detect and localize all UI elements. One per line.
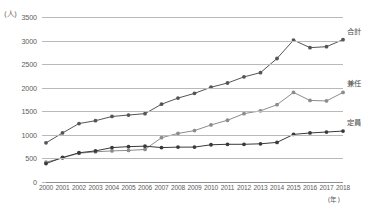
y-axis-tick-label: 1500 xyxy=(7,111,37,120)
data-point-marker xyxy=(325,130,329,134)
y-axis-tick-mark xyxy=(42,158,46,159)
gridline xyxy=(46,135,343,136)
gridline xyxy=(46,41,343,42)
data-point-marker xyxy=(160,146,164,150)
data-point-marker xyxy=(226,142,230,146)
y-axis-tick-label: 2500 xyxy=(7,64,37,73)
gridline xyxy=(46,64,343,65)
y-axis-tick-label: 500 xyxy=(7,158,37,167)
series-layer xyxy=(46,17,343,182)
data-point-marker xyxy=(275,141,279,145)
x-axis-tick-label: 2012 xyxy=(237,184,251,191)
x-axis-tick-label: 2010 xyxy=(204,184,218,191)
data-point-marker xyxy=(341,91,345,95)
x-axis-tick-labels: 2000200120022003200420052006200720082009… xyxy=(46,184,343,196)
line-chart: (人) 200020012002200320042005200620072008… xyxy=(0,0,381,214)
gridline xyxy=(46,182,343,183)
data-point-marker xyxy=(308,99,312,103)
x-axis-tick-label: 2005 xyxy=(121,184,135,191)
y-axis-tick-label: 0 xyxy=(7,182,37,191)
y-axis-tick-mark xyxy=(42,111,46,112)
y-axis-tick-mark xyxy=(42,64,46,65)
data-point-marker xyxy=(160,136,164,140)
y-axis-tick-label: 2000 xyxy=(7,88,37,97)
data-point-marker xyxy=(226,118,230,122)
data-point-marker xyxy=(341,129,345,133)
x-axis-tick-label: 2017 xyxy=(319,184,333,191)
data-point-marker xyxy=(127,113,131,117)
plot-area xyxy=(46,17,343,182)
x-axis-tick-label: 2016 xyxy=(303,184,317,191)
data-point-marker xyxy=(259,142,263,146)
data-point-marker xyxy=(242,75,246,79)
data-point-marker xyxy=(193,129,197,133)
series-label-1: 合計 xyxy=(347,28,361,35)
x-axis-tick-label: 2006 xyxy=(138,184,152,191)
y-axis-tick-mark xyxy=(42,135,46,136)
x-axis-tick-label: 2000 xyxy=(39,184,53,191)
x-axis-tick-label: 2008 xyxy=(171,184,185,191)
gridline xyxy=(46,158,343,159)
series-line xyxy=(46,40,343,143)
data-point-marker xyxy=(143,148,147,152)
x-axis-tick-label: 2002 xyxy=(72,184,86,191)
data-point-marker xyxy=(242,142,246,146)
x-axis-tick-label: 2001 xyxy=(55,184,69,191)
data-point-marker xyxy=(209,123,213,127)
x-axis-tick-label: 2018 xyxy=(336,184,350,191)
data-point-marker xyxy=(143,112,147,116)
data-point-marker xyxy=(44,141,48,145)
y-axis-tick-label: 3000 xyxy=(7,41,37,50)
gridline xyxy=(46,88,343,89)
x-axis-tick-label: 2003 xyxy=(88,184,102,191)
data-point-marker xyxy=(209,143,213,147)
data-point-marker xyxy=(77,151,81,155)
x-axis-tick-label: 2015 xyxy=(286,184,300,191)
data-point-marker xyxy=(176,145,180,149)
data-point-marker xyxy=(325,45,329,49)
x-axis-tick-label: 2007 xyxy=(154,184,168,191)
data-point-marker xyxy=(242,112,246,116)
data-point-marker xyxy=(275,103,279,107)
x-axis-unit-label: (年) xyxy=(328,194,340,204)
series-label-2: 兼任 xyxy=(347,80,361,87)
data-point-marker xyxy=(127,149,131,153)
data-point-marker xyxy=(94,149,98,153)
gridline xyxy=(46,17,343,18)
data-point-marker xyxy=(127,145,131,149)
y-axis-tick-mark xyxy=(42,182,46,183)
data-point-marker xyxy=(292,91,296,95)
data-point-marker xyxy=(44,162,48,166)
y-axis-tick-mark xyxy=(42,88,46,89)
x-axis-tick-label: 2011 xyxy=(221,184,235,191)
x-axis-tick-label: 2014 xyxy=(270,184,284,191)
data-point-marker xyxy=(160,102,164,106)
x-axis-tick-label: 2009 xyxy=(187,184,201,191)
series-label-3: 定員 xyxy=(347,119,361,126)
gridline xyxy=(46,111,343,112)
data-point-marker xyxy=(275,57,279,61)
y-axis-tick-mark xyxy=(42,41,46,42)
data-point-marker xyxy=(308,46,312,50)
data-point-marker xyxy=(110,149,114,153)
y-axis-tick-label: 3500 xyxy=(7,17,37,26)
data-point-marker xyxy=(110,146,114,150)
data-point-marker xyxy=(193,145,197,149)
data-point-marker xyxy=(143,144,147,148)
data-point-marker xyxy=(193,91,197,95)
data-point-marker xyxy=(94,119,98,123)
data-point-marker xyxy=(259,71,263,75)
data-point-marker xyxy=(176,96,180,100)
data-point-marker xyxy=(77,122,81,126)
y-axis-tick-mark xyxy=(42,17,46,18)
y-axis-tick-label: 1000 xyxy=(7,135,37,144)
x-axis-tick-label: 2013 xyxy=(253,184,267,191)
x-axis-tick-label: 2004 xyxy=(105,184,119,191)
data-point-marker xyxy=(325,99,329,103)
data-point-marker xyxy=(110,115,114,119)
data-point-marker xyxy=(226,81,230,85)
